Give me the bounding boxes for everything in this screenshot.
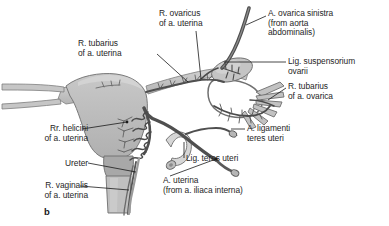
label-r-tubarius-of-a-uterina: R. tubarius of a. uterina	[78, 39, 122, 58]
label-lig-suspensorium-ovarii: Lig. suspensorium ovarii	[288, 57, 355, 76]
label-r-tubarius-of-a-ovarica: R. tubarius of a. ovarica	[288, 82, 333, 101]
label-r-ovaricus-of-a-uterina: R. ovaricus of a. uterina	[159, 9, 203, 28]
label-lig-teres-uteri: Lig. teres uteri	[186, 154, 238, 164]
a-ligamenti-teres-uteri-vessel	[186, 128, 232, 134]
label-rr-helicini-of-a-uterina: Rr. helicini of a. uterina	[4, 124, 88, 143]
uterine-tube-left-stub	[2, 84, 64, 92]
figure-panel: R. ovaricus of a. uterina A. ovarica sin…	[0, 0, 389, 226]
panel-letter-b: b	[44, 206, 50, 217]
label-a-ovarica-sinistra: A. ovarica sinistra (from aorta abdomina…	[268, 9, 333, 38]
label-ureter: Ureter	[4, 159, 88, 169]
fimbriae	[242, 82, 284, 129]
vagina-highlight	[110, 178, 118, 212]
label-a-ligamenti-teres-uteri: A. ligamenti teres uteri	[247, 124, 290, 143]
leader-a-ovarica-sinistra	[246, 16, 266, 25]
round-ligament-left-stub	[2, 99, 61, 109]
label-r-vaginalis-of-a-uterina: R. vaginalis of a. uterina	[4, 181, 88, 200]
label-a-uterina: A. uterina (from a. iliaca interna)	[163, 176, 243, 195]
